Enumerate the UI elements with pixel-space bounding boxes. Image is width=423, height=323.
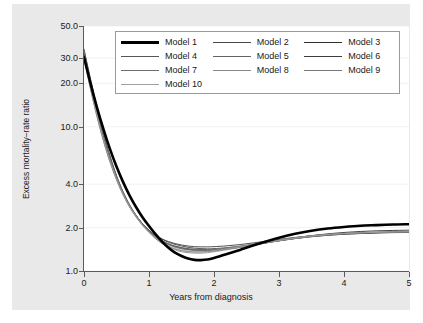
chart-legend: Model 1Model 2Model 3Model 4Model 5Model… bbox=[115, 31, 400, 94]
x-tick-label: 2 bbox=[211, 279, 216, 288]
legend-swatch bbox=[121, 56, 159, 57]
y-tick-label: 2.0 bbox=[65, 223, 78, 232]
legend-swatch bbox=[304, 42, 342, 43]
legend-entry[interactable]: Model 2 bbox=[213, 35, 303, 49]
legend-entry[interactable]: Model 7 bbox=[121, 63, 211, 77]
x-tick-label: 4 bbox=[341, 279, 346, 288]
figure-container: Excess mortality–rate ratio 1.02.04.010.… bbox=[0, 0, 423, 323]
legend-entry[interactable]: Model 4 bbox=[121, 49, 211, 63]
legend-grid: Model 1Model 2Model 3Model 4Model 5Model… bbox=[121, 35, 394, 91]
legend-label: Model 1 bbox=[165, 38, 197, 47]
x-tick-mark bbox=[214, 272, 215, 277]
x-axis-title: Years from diagnosis bbox=[12, 292, 410, 302]
legend-label: Model 9 bbox=[348, 66, 380, 75]
legend-label: Model 10 bbox=[165, 80, 202, 89]
x-tick-mark bbox=[149, 272, 150, 277]
y-tick-label: 50.0 bbox=[60, 22, 78, 31]
legend-entry[interactable]: Model 9 bbox=[304, 63, 394, 77]
x-tick-label: 0 bbox=[81, 279, 86, 288]
x-tick-label: 5 bbox=[406, 279, 411, 288]
y-tick-mark bbox=[79, 184, 84, 185]
legend-entry[interactable]: Model 1 bbox=[121, 35, 211, 49]
x-tick-mark bbox=[279, 272, 280, 277]
y-tick-label: 4.0 bbox=[65, 180, 78, 189]
x-tick-mark bbox=[344, 272, 345, 277]
x-tick-label: 3 bbox=[276, 279, 281, 288]
legend-label: Model 4 bbox=[165, 52, 197, 61]
graph-panel: Excess mortality–rate ratio 1.02.04.010.… bbox=[12, 4, 410, 310]
y-axis-line bbox=[83, 26, 84, 271]
x-tick-mark bbox=[409, 272, 410, 277]
legend-label: Model 5 bbox=[257, 52, 289, 61]
legend-swatch bbox=[121, 41, 159, 44]
y-tick-mark bbox=[79, 127, 84, 128]
legend-entry[interactable]: Model 5 bbox=[213, 49, 303, 63]
legend-label: Model 6 bbox=[348, 52, 380, 61]
y-tick-mark bbox=[79, 58, 84, 59]
x-axis-line bbox=[84, 271, 409, 272]
legend-swatch bbox=[213, 56, 251, 57]
legend-swatch bbox=[213, 70, 251, 71]
legend-label: Model 7 bbox=[165, 66, 197, 75]
legend-label: Model 3 bbox=[348, 38, 380, 47]
legend-label: Model 2 bbox=[257, 38, 289, 47]
legend-label: Model 8 bbox=[257, 66, 289, 75]
legend-swatch bbox=[121, 70, 159, 71]
legend-entry[interactable]: Model 10 bbox=[121, 77, 211, 91]
y-tick-label: 30.0 bbox=[60, 53, 78, 62]
y-axis-title: Excess mortality–rate ratio bbox=[21, 98, 31, 198]
legend-entry[interactable]: Model 3 bbox=[304, 35, 394, 49]
y-tick-label: 20.0 bbox=[60, 79, 78, 88]
legend-swatch bbox=[304, 56, 342, 57]
legend-entry[interactable]: Model 6 bbox=[304, 49, 394, 63]
y-tick-mark bbox=[79, 228, 84, 229]
y-tick-label: 10.0 bbox=[60, 122, 78, 131]
x-tick-mark bbox=[84, 272, 85, 277]
x-tick-label: 1 bbox=[146, 279, 151, 288]
y-tick-mark bbox=[79, 26, 84, 27]
legend-swatch bbox=[304, 70, 342, 71]
y-tick-mark bbox=[79, 83, 84, 84]
legend-swatch bbox=[213, 42, 251, 43]
legend-swatch bbox=[121, 84, 159, 85]
legend-entry[interactable]: Model 8 bbox=[213, 63, 303, 77]
y-tick-label: 1.0 bbox=[65, 267, 78, 276]
